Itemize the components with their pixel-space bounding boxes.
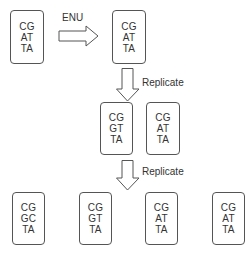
base-pair: TA bbox=[21, 43, 33, 54]
enu-label: ENU bbox=[62, 12, 83, 23]
base-pair: CG bbox=[21, 202, 36, 213]
base-pair: TA bbox=[110, 134, 122, 145]
dna-box-gen2-c: CG AT TA bbox=[145, 192, 178, 245]
base-pair: AT bbox=[155, 213, 167, 224]
dna-box-mutagenized: CG AT TA bbox=[112, 10, 146, 64]
base-pair: TA bbox=[22, 224, 34, 235]
mutagenesis-diagram: CG AT TA ENU CG AT TA Replicate CG GT TA… bbox=[0, 0, 252, 259]
base-pair: TA bbox=[89, 224, 101, 235]
base-pair: CG bbox=[88, 202, 103, 213]
base-pair: CG bbox=[221, 202, 236, 213]
base-pair: CG bbox=[19, 21, 34, 32]
dna-box-gen2-d: CG AT TA bbox=[212, 192, 245, 245]
right-arrow-icon bbox=[58, 25, 100, 47]
base-pair: GT bbox=[109, 123, 123, 134]
base-pair: TA bbox=[157, 134, 169, 145]
base-pair: AT bbox=[157, 123, 169, 134]
base-pair: TA bbox=[123, 43, 135, 54]
dna-box-gen1-a: CG GT TA bbox=[100, 102, 133, 155]
base-pair: CG bbox=[155, 112, 170, 123]
base-pair: TA bbox=[222, 224, 234, 235]
dna-box-gen2-b: CG GT TA bbox=[79, 192, 112, 245]
down-arrow-icon bbox=[116, 68, 140, 102]
base-pair: GC bbox=[21, 213, 36, 224]
base-pair: GT bbox=[88, 213, 102, 224]
dna-box-original: CG AT TA bbox=[10, 10, 44, 64]
dna-box-gen2-a: CG GC TA bbox=[12, 192, 45, 245]
dna-box-gen1-b: CG AT TA bbox=[146, 102, 180, 155]
base-pair: CG bbox=[121, 21, 136, 32]
base-pair: TA bbox=[155, 224, 167, 235]
base-pair: CG bbox=[109, 112, 124, 123]
base-pair: AT bbox=[222, 213, 234, 224]
base-pair: AT bbox=[21, 32, 33, 43]
base-pair: CG bbox=[154, 202, 169, 213]
replicate-label-1: Replicate bbox=[142, 77, 184, 88]
base-pair: AT bbox=[123, 32, 135, 43]
down-arrow-icon bbox=[116, 160, 140, 192]
replicate-label-2: Replicate bbox=[142, 166, 184, 177]
